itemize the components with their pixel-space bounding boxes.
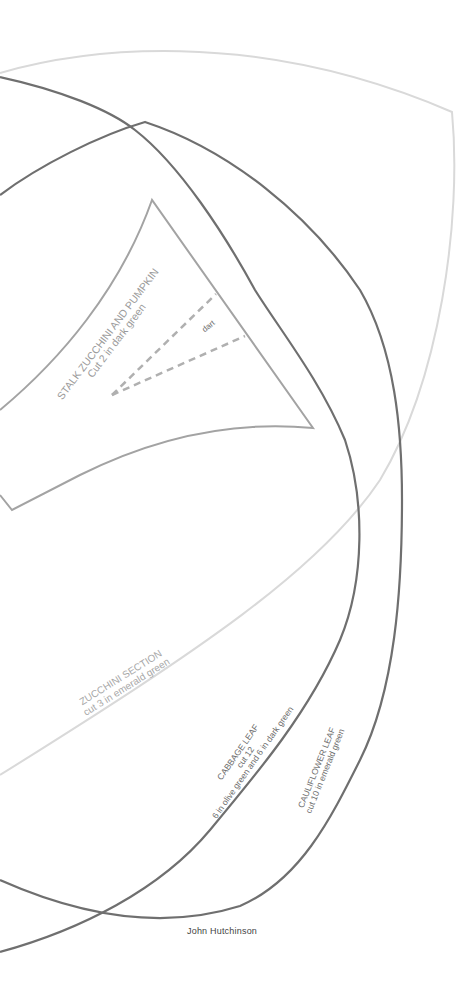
stalk-outline [0,200,313,510]
cabbage-leaf-outline [0,77,359,952]
dart-line-lower [112,336,245,395]
zucchini-section-outline [0,51,454,775]
credit-text: John Hutchinson [187,926,257,936]
sewing-pattern-canvas [0,0,458,989]
